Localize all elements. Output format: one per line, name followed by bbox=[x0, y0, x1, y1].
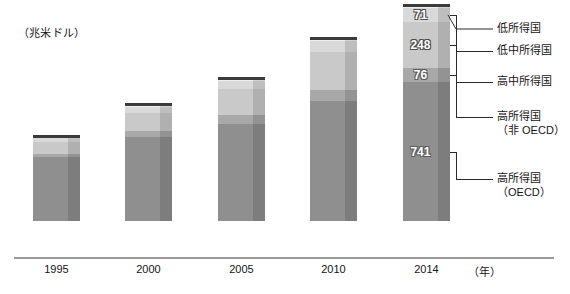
legend-item-high_income_non_oecd: 高所得国（非 OECD） bbox=[497, 110, 565, 138]
legend-item-upper_middle_income: 高中所得国 bbox=[497, 75, 552, 89]
legend-label: 高所得国 bbox=[497, 172, 541, 184]
legend-connector-vertical-high_income_non_oecd bbox=[456, 75, 457, 117]
legend-leader-line-upper_middle_income bbox=[456, 82, 493, 83]
legend-label: 高所得国 bbox=[497, 110, 541, 122]
legend-label-secondary: （OECD） bbox=[497, 186, 551, 200]
legend-item-high_income_oecd: 高所得国（OECD） bbox=[497, 172, 551, 200]
legend-leader-line-low_income bbox=[0, 0, 570, 294]
legend-leader-line-high_income_oecd bbox=[456, 179, 493, 180]
legend-leader-line-high_income_non_oecd bbox=[456, 117, 493, 118]
legend-label-secondary: （非 OECD） bbox=[497, 124, 565, 138]
stacked-bar-chart: （兆米ドル） 7.27124876741 1995200020052010201… bbox=[0, 0, 570, 294]
legend-connector-vertical-high_income_oecd bbox=[456, 152, 457, 179]
legend-leader-line-lower_middle_income bbox=[456, 51, 493, 52]
legend-label: 低中所得国 bbox=[497, 44, 552, 56]
legend-label: 高中所得国 bbox=[497, 75, 552, 87]
legend-item-lower_middle_income: 低中所得国 bbox=[497, 44, 552, 58]
